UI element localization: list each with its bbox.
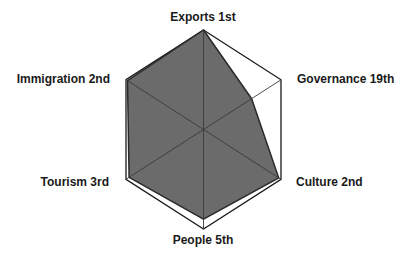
axis-label-culture: Culture 2nd xyxy=(296,175,363,189)
axis-label-governance: Governance 19th xyxy=(297,72,394,86)
radar-chart: Exports 1st Governance 19th Culture 2nd … xyxy=(0,0,408,257)
axis-label-exports: Exports 1st xyxy=(170,10,235,24)
axis-label-people: People 5th xyxy=(173,233,234,247)
axis-label-tourism: Tourism 3rd xyxy=(41,175,109,189)
axis-label-immigration: Immigration 2nd xyxy=(17,72,110,86)
